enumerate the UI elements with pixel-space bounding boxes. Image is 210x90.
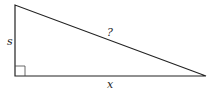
right-triangle-diagram: s ? x [0,0,210,90]
right-angle-marker [15,66,25,76]
triangle [15,5,206,76]
label-vertical-side: s [7,35,13,48]
label-horizontal-side: x [107,78,114,90]
label-hypotenuse: ? [107,26,113,39]
